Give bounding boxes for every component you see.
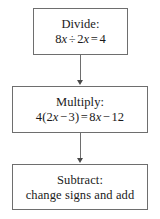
divide-result: 4 <box>99 32 105 46</box>
multiply-term-1: 3) <box>69 110 80 124</box>
flowchart-node-divide: Divide: 8x÷2x=4 <box>33 8 128 55</box>
multiply-term-2: 12 <box>112 110 125 124</box>
node-divide-title: Divide: <box>61 17 99 31</box>
node-divide-body: 8x÷2x=4 <box>55 32 106 46</box>
division-operator: ÷ <box>67 32 77 46</box>
multiply-factor: 4(2 <box>36 110 53 124</box>
connector-multiply-to-subtract-line <box>80 133 81 160</box>
flowchart-diagram: Divide: 8x÷2x=4 Multiply: 4(2x−3)=8x−12 … <box>0 0 160 219</box>
node-multiply-body: 4(2x−3)=8x−12 <box>36 110 124 124</box>
divide-equals-sign: = <box>89 32 99 46</box>
multiply-minus-sign-2: − <box>101 110 111 124</box>
node-multiply-title: Multiply: <box>56 95 104 109</box>
connector-divide-to-multiply-line <box>80 55 81 82</box>
multiply-equals-sign: = <box>79 110 89 124</box>
down-arrow-icon <box>77 80 83 85</box>
flowchart-node-subtract: Subtract: change signs and add <box>12 164 148 210</box>
node-subtract-title: Subtract: <box>57 173 103 187</box>
node-subtract-body: change signs and add <box>26 188 135 202</box>
down-arrow-icon <box>77 158 83 163</box>
flowchart-node-multiply: Multiply: 4(2x−3)=8x−12 <box>12 86 148 133</box>
multiply-minus-sign-1: − <box>58 110 68 124</box>
